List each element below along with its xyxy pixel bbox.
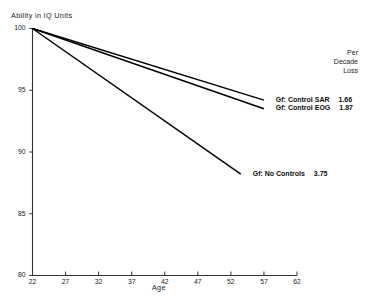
- x-axis-tick-label: 32: [89, 278, 109, 285]
- x-axis-tick-label: 57: [254, 278, 274, 285]
- series-line: [33, 29, 264, 109]
- legend-series-value: 1.87: [339, 104, 365, 111]
- legend-series-label: Gf: Control EOG: [276, 104, 330, 111]
- legend-header-line-2: Decade: [334, 57, 358, 66]
- x-axis-tick-label: 52: [221, 278, 241, 285]
- x-axis-tick-label: 62: [287, 278, 307, 285]
- y-axis-tick-label: 85: [6, 210, 26, 217]
- series-line: [33, 29, 241, 175]
- line-chart-plot: [0, 0, 366, 300]
- legend-series-label: Gf: No Controls: [253, 170, 305, 177]
- legend-row: Gf: No Controls3.75: [253, 170, 340, 177]
- legend-header: Per Decade Loss: [334, 48, 358, 76]
- legend-series-value: 3.75: [314, 170, 340, 177]
- legend-series-label: Gf: Control SAR: [276, 96, 330, 103]
- x-axis-tick-label: 37: [122, 278, 142, 285]
- y-axis-tick-label: 90: [6, 148, 26, 155]
- x-axis-tick-label: 27: [56, 278, 76, 285]
- chart-figure: Ability in IQ Units Age 80859095100 2227…: [0, 0, 366, 300]
- legend-header-line-1: Per: [334, 48, 358, 57]
- x-axis-tick-label: 47: [188, 278, 208, 285]
- legend-row: Gf: Control EOG1.87: [276, 104, 365, 111]
- legend-series-value: 1.66: [339, 96, 365, 103]
- y-axis-tick-label: 100: [6, 24, 26, 31]
- y-axis-tick-label: 95: [6, 86, 26, 93]
- y-axis-title: Ability in IQ Units: [11, 11, 72, 20]
- x-axis-tick-label: 22: [23, 278, 43, 285]
- x-axis-tick-label: 42: [155, 278, 175, 285]
- legend-row: Gf: Control SAR1.66: [276, 96, 365, 103]
- series-line: [33, 29, 264, 101]
- legend-header-line-3: Loss: [334, 66, 358, 75]
- axis-spine: [33, 29, 298, 276]
